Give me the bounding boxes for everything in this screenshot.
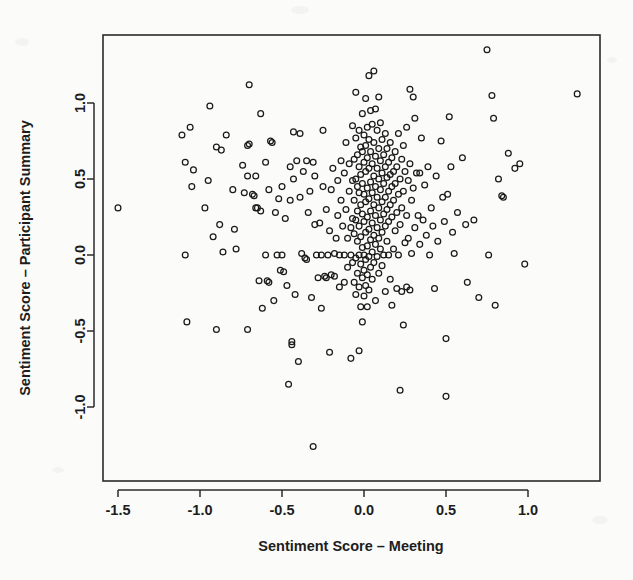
x-axis-tick-label: -1.0 <box>188 502 213 518</box>
x-axis-tick-label: -0.5 <box>270 502 295 518</box>
x-axis-tick-label: 0.0 <box>354 502 374 518</box>
y-axis-tick-label: 0.5 <box>72 169 88 189</box>
scatter-plot-canvas: -1.5-1.0-0.50.00.51.0 -1.0-0.50.00.51.0 … <box>0 0 633 580</box>
x-axis-tick-label: 0.5 <box>436 502 456 518</box>
y-axis-title: Sentiment Score – Participant Summary <box>17 120 33 396</box>
x-axis-tick-label: 1.0 <box>518 502 538 518</box>
y-axis-tick-label: 1.0 <box>72 93 88 113</box>
x-axis-title: Sentiment Score – Meeting <box>258 538 443 554</box>
y-axis-tick-label: -1.0 <box>72 395 88 420</box>
y-axis-tick-label: -0.5 <box>72 319 88 344</box>
y-axis-tick-label: 0.0 <box>72 245 88 265</box>
scatter-plot-figure: -1.5-1.0-0.50.00.51.0 -1.0-0.50.00.51.0 … <box>0 0 633 580</box>
x-axis-tick-label: -1.5 <box>106 502 131 518</box>
page-background <box>0 0 633 580</box>
